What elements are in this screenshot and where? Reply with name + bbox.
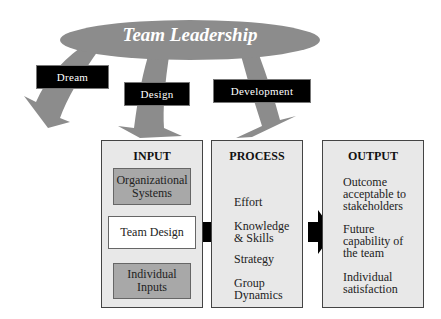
input-heading: INPUT: [102, 149, 202, 164]
development-label: Development: [213, 79, 311, 103]
process-heading: PROCESS: [212, 149, 302, 164]
process-item: Group Dynamics: [234, 277, 294, 301]
output-heading: OUTPUT: [323, 149, 423, 164]
process-item: Strategy: [234, 253, 274, 265]
output-item: Future capability of the team: [343, 223, 419, 259]
output-item: Individual satisfaction: [343, 271, 415, 295]
team-design-box: Team Design: [108, 216, 196, 249]
output-item: Outcome acceptable to stakeholders: [343, 176, 423, 212]
process-item: Knowledge & Skills: [234, 220, 298, 244]
process-item: Effort: [234, 196, 262, 208]
output-panel: OUTPUT Outcome acceptable to stakeholder…: [322, 140, 424, 308]
dream-label: Dream: [36, 65, 109, 89]
design-label: Design: [124, 82, 190, 106]
individual-inputs-box: Individual Inputs: [113, 263, 191, 299]
process-panel: PROCESS Effort Knowledge & Skills Strate…: [211, 140, 303, 308]
team-leadership-title: Team Leadership: [60, 24, 320, 46]
organizational-systems-box: Organizational Systems: [113, 168, 191, 205]
